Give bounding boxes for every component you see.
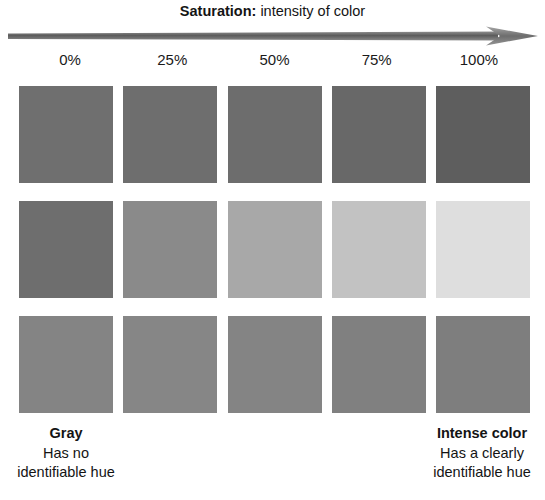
swatch-r2-c1 (19, 201, 113, 298)
caption-intense-color: Intense color Has a clearly identifiable… (392, 424, 545, 483)
caption-gray-line2: identifiable hue (0, 463, 156, 483)
page-title: Saturation: intensity of color (0, 2, 545, 20)
tick-label-50: 50% (223, 50, 325, 72)
caption-gray-title: Gray (0, 424, 156, 444)
caption-gray-line1: Has no (0, 444, 156, 464)
title-description: intensity of color (256, 3, 365, 19)
swatch-r3-c4 (332, 316, 426, 413)
axis-tick-labels: 0% 25% 50% 75% 100% (19, 50, 530, 72)
swatch-r2-c5 (436, 201, 530, 298)
saturation-swatch-grid (19, 86, 530, 413)
swatch-row-3 (19, 316, 530, 413)
arrow-right-icon (8, 26, 538, 48)
tick-label-75: 75% (326, 50, 428, 72)
swatch-r2-c2 (123, 201, 217, 298)
saturation-axis-arrow (8, 26, 538, 48)
swatch-r3-c1 (19, 316, 113, 413)
swatch-r2-c4 (332, 201, 426, 298)
tick-label-0: 0% (19, 50, 121, 72)
swatch-r1-c1 (19, 86, 113, 183)
tick-label-25: 25% (121, 50, 223, 72)
swatch-row-1 (19, 86, 530, 183)
swatch-r1-c5 (436, 86, 530, 183)
swatch-r1-c4 (332, 86, 426, 183)
swatch-row-2 (19, 201, 530, 298)
swatch-r2-c3 (228, 201, 322, 298)
swatch-r3-c3 (228, 316, 322, 413)
swatch-r3-c2 (123, 316, 217, 413)
title-term: Saturation: (180, 3, 257, 19)
caption-gray: Gray Has no identifiable hue (0, 424, 156, 483)
tick-label-100: 100% (428, 50, 530, 72)
swatch-r1-c2 (123, 86, 217, 183)
caption-intense-line2: identifiable hue (392, 463, 545, 483)
swatch-r1-c3 (228, 86, 322, 183)
caption-intense-title: Intense color (392, 424, 545, 444)
swatch-r3-c5 (436, 316, 530, 413)
caption-intense-line1: Has a clearly (392, 444, 545, 464)
